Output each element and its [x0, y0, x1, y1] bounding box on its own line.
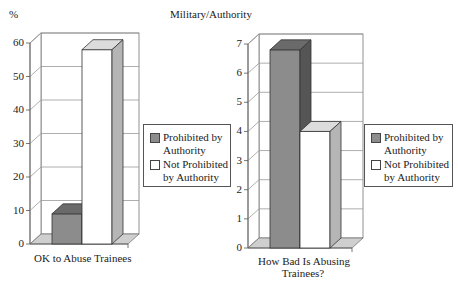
y-tick-label: 1: [226, 212, 242, 224]
y-tick-label: 0: [226, 241, 242, 253]
bar: [270, 50, 300, 248]
legend-label: Authority: [384, 144, 427, 157]
legend-swatch-prohibited: [371, 133, 381, 143]
y-tick-label: 4: [226, 124, 242, 136]
chart-2-x-label-line2: Trainees?: [258, 267, 348, 280]
y-tick-label: 7: [226, 37, 242, 49]
y-tick-label: 3: [226, 154, 242, 166]
bar: [300, 131, 330, 248]
legend-label: Prohibited by: [384, 131, 444, 144]
y-tick-label: 6: [226, 66, 242, 78]
legend-label: by Authority: [384, 171, 440, 184]
y-tick-label: 5: [226, 95, 242, 107]
legend-label: Not Prohibited: [384, 158, 449, 171]
chart-2-legend: Prohibited by Authority Not Prohibited b…: [364, 124, 453, 187]
legend-swatch-not-prohibited: [371, 160, 381, 170]
y-tick-label: 2: [226, 183, 242, 195]
